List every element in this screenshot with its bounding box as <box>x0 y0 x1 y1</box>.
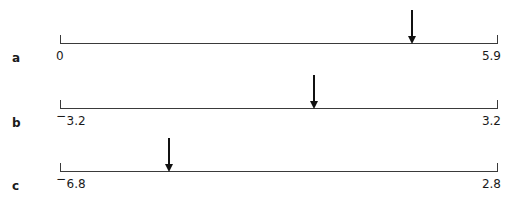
arrow-down-icon-a <box>411 10 413 44</box>
end-label-left-value-a: 0 <box>56 49 64 63</box>
end-label-right-c: 2.8 <box>437 178 501 190</box>
end-label-left-a: 0 <box>56 50 64 62</box>
end-label-right-value-a: 5.9 <box>482 49 501 63</box>
arrow-shaft-b <box>313 75 315 101</box>
end-label-right-b: 3.2 <box>437 115 501 127</box>
axis-line-a <box>60 43 497 44</box>
end-label-left-b: −3.2 <box>56 115 86 127</box>
axis-tick-right-c <box>497 163 498 172</box>
arrow-head-b <box>310 101 318 109</box>
arrow-shaft-c <box>168 138 170 164</box>
axis-tick-left-c <box>60 163 61 172</box>
end-label-left-c: −6.8 <box>56 178 86 190</box>
negative-sign-icon-left-b: − <box>56 109 66 123</box>
end-label-right-a: 5.9 <box>437 50 501 62</box>
end-label-left-value-c: 6.8 <box>67 177 86 191</box>
axis-tick-left-b <box>60 100 61 109</box>
axis-tick-right-a <box>497 35 498 44</box>
axis-line-c <box>60 171 497 172</box>
end-label-right-value-c: 2.8 <box>482 177 501 191</box>
end-label-right-value-b: 3.2 <box>482 114 501 128</box>
row-letter-c: c <box>12 180 19 192</box>
axis-tick-right-b <box>497 100 498 109</box>
axis-tick-left-a <box>60 35 61 44</box>
arrow-shaft-a <box>411 10 413 36</box>
arrow-down-icon-b <box>313 75 315 109</box>
arrow-head-c <box>165 164 173 172</box>
arrow-down-icon-c <box>168 138 170 172</box>
row-letter-a: a <box>12 52 20 64</box>
negative-sign-icon-left-c: − <box>56 172 66 186</box>
arrow-head-a <box>408 36 416 44</box>
row-letter-b: b <box>12 117 21 129</box>
axis-line-b <box>60 108 497 109</box>
number-line-figure: a05.9b−3.23.2c−6.82.8 <box>0 0 525 202</box>
end-label-left-value-b: 3.2 <box>67 114 86 128</box>
